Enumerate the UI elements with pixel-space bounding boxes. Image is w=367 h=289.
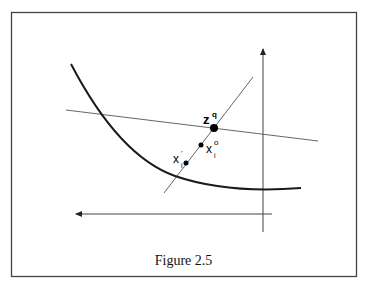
point-xi-prime [184, 161, 189, 166]
diagonal-line [164, 77, 253, 193]
figure-caption: Figure 2.5 [0, 253, 367, 269]
slanted-line [66, 110, 318, 141]
diagram-canvas: z q x o i x ' i [0, 0, 367, 289]
point-xi-o [199, 143, 204, 148]
convex-curve [71, 64, 301, 190]
